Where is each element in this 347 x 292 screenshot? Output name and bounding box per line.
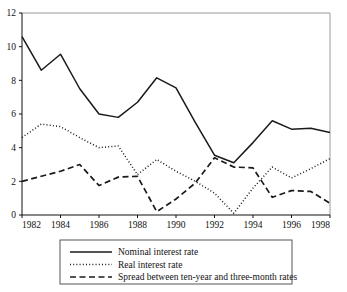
y-tick-label: 2 bbox=[11, 177, 16, 187]
x-tick-label: 1992 bbox=[205, 220, 224, 230]
y-axis-ticks: 024681012 bbox=[7, 8, 23, 220]
legend-label: Real interest rate bbox=[118, 260, 182, 270]
series-line bbox=[22, 37, 330, 163]
x-tick-label: 1982 bbox=[22, 220, 41, 230]
x-axis-ticks: 198219841986198819901992199419961998 bbox=[22, 215, 330, 230]
legend: Nominal interest rateReal interest rateS… bbox=[60, 240, 297, 284]
x-tick-label: 1990 bbox=[167, 220, 186, 230]
x-tick-label: 1998 bbox=[311, 220, 330, 230]
y-tick-label: 0 bbox=[11, 210, 16, 220]
interest-rate-chart: 024681012 198219841986198819901992199419… bbox=[0, 0, 347, 292]
y-tick-label: 6 bbox=[11, 109, 16, 119]
x-tick-label: 1988 bbox=[128, 220, 147, 230]
y-tick-label: 12 bbox=[7, 8, 17, 18]
y-tick-label: 10 bbox=[7, 42, 17, 52]
legend-label: Spread between ten-year and three-month … bbox=[118, 272, 297, 282]
x-tick-label: 1996 bbox=[282, 220, 301, 230]
y-tick-label: 4 bbox=[11, 143, 16, 153]
data-series-group bbox=[22, 37, 330, 214]
plot-frame bbox=[22, 13, 330, 215]
x-tick-label: 1984 bbox=[51, 220, 70, 230]
chart-canvas: 024681012 198219841986198819901992199419… bbox=[0, 0, 347, 292]
y-tick-label: 8 bbox=[11, 76, 16, 86]
x-tick-label: 1986 bbox=[90, 220, 109, 230]
legend-label: Nominal interest rate bbox=[118, 247, 198, 257]
series-line bbox=[22, 158, 330, 212]
legend-entries: Nominal interest rateReal interest rateS… bbox=[70, 247, 297, 282]
x-tick-label: 1994 bbox=[244, 220, 263, 230]
